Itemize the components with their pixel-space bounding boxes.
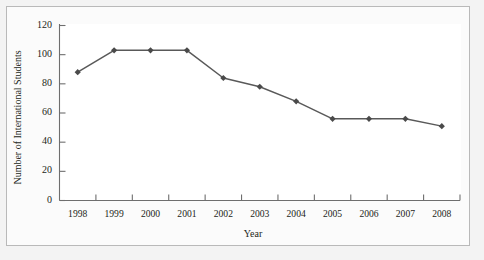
x-tick-label: 1999: [94, 208, 134, 219]
chart-figure: 020406080100120 199819992000200120022003…: [0, 0, 484, 260]
y-tick-label: 120: [26, 19, 52, 30]
x-tick-label: 1998: [58, 208, 98, 219]
x-tick-label: 2001: [167, 208, 207, 219]
x-tick-label: 2004: [276, 208, 316, 219]
x-axis-title: Year: [58, 228, 448, 239]
y-tick-label: 20: [26, 164, 52, 175]
y-tick-label: 80: [26, 77, 52, 88]
y-tick-label: 100: [26, 48, 52, 59]
x-tick-label: 2006: [349, 208, 389, 219]
x-tick-label: 2003: [240, 208, 280, 219]
y-tick-label: 0: [26, 194, 52, 205]
x-tick-label: 2008: [422, 208, 462, 219]
y-tick-label: 40: [26, 135, 52, 146]
x-tick-label: 2002: [203, 208, 243, 219]
x-tick-label: 2007: [385, 208, 425, 219]
x-tick-label: 2000: [131, 208, 171, 219]
x-tick-label: 2005: [313, 208, 353, 219]
y-tick-label: 60: [26, 106, 52, 117]
y-axis-title: Number of International Students: [12, 43, 23, 193]
line-chart-canvas: [0, 0, 484, 260]
